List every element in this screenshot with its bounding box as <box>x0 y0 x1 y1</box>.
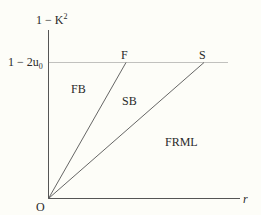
threshold-label: 1 − 2u0 <box>8 55 43 71</box>
origin-label: O <box>36 200 45 214</box>
phase-diagram: 1 − K2 1 − 2u0 F S FB SB FRML O r <box>0 0 261 215</box>
x-axis-label: r <box>243 192 248 206</box>
y-axis-label: 1 − K2 <box>36 12 67 27</box>
region-label-sb: SB <box>122 94 137 108</box>
region-label-fb: FB <box>71 82 86 96</box>
endpoint-label-f: F <box>121 48 128 62</box>
region-label-frml: FRML <box>165 135 198 149</box>
endpoint-label-s: S <box>199 48 206 62</box>
line-o-f <box>49 63 127 199</box>
